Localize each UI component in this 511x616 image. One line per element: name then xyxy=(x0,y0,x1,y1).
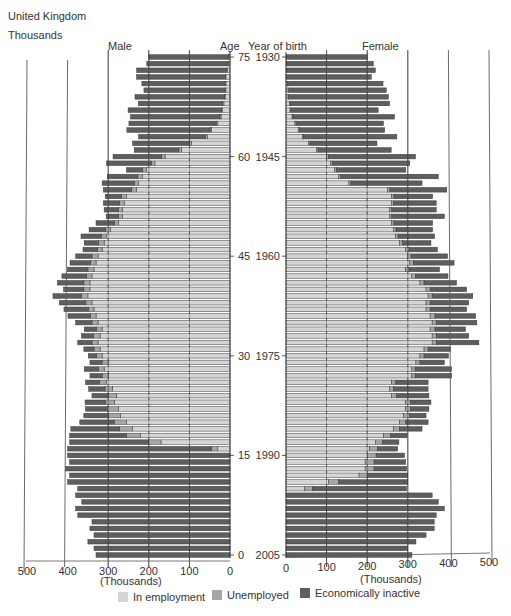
svg-text:0: 0 xyxy=(238,549,244,561)
svg-text:30: 30 xyxy=(238,350,250,362)
units-label: Thousands xyxy=(8,29,62,41)
svg-text:200: 200 xyxy=(358,560,376,572)
svg-text:100: 100 xyxy=(180,565,198,577)
svg-text:300: 300 xyxy=(399,558,417,570)
svg-text:100: 100 xyxy=(317,561,335,573)
female-label: Female xyxy=(362,40,399,52)
population-pyramid-chart: 7519306019454519603019751519900200500100… xyxy=(0,0,511,616)
svg-text:2005: 2005 xyxy=(256,549,280,561)
svg-text:400: 400 xyxy=(439,557,457,569)
svg-text:0: 0 xyxy=(283,562,289,574)
legend-label: Unemployed xyxy=(227,589,289,601)
legend-item-unemployed: Unemployed xyxy=(212,589,289,601)
svg-text:45: 45 xyxy=(238,250,250,262)
male-x-unit-label: (Thousands) xyxy=(100,575,162,587)
male-label: Male xyxy=(108,40,132,52)
svg-text:500: 500 xyxy=(480,556,498,568)
axes xyxy=(26,52,490,561)
svg-text:60: 60 xyxy=(238,151,250,163)
female-bars xyxy=(286,50,479,567)
svg-text:15: 15 xyxy=(238,449,250,461)
legend-label: In employment xyxy=(133,591,205,603)
svg-text:1945: 1945 xyxy=(256,151,280,163)
legend: In employment Unemployed Economically in… xyxy=(0,591,511,607)
svg-text:500: 500 xyxy=(18,565,36,577)
legend-item-employment: In employment xyxy=(118,591,205,603)
svg-text:1960: 1960 xyxy=(256,250,280,262)
age-axis-label: Age xyxy=(220,40,240,52)
employment-swatch-icon xyxy=(118,592,128,602)
inactive-swatch-icon xyxy=(300,588,310,598)
legend-label: Economically inactive xyxy=(315,587,420,599)
svg-text:1930: 1930 xyxy=(256,51,280,63)
male-bars xyxy=(53,50,230,567)
svg-text:1990: 1990 xyxy=(256,449,280,461)
svg-text:1975: 1975 xyxy=(256,350,280,362)
legend-item-inactive: Economically inactive xyxy=(300,587,420,599)
year-of-birth-label: Year of birth xyxy=(248,40,307,52)
unemployed-swatch-icon xyxy=(212,590,222,600)
region-label: United Kingdom xyxy=(8,10,86,22)
svg-text:75: 75 xyxy=(238,51,250,63)
svg-text:400: 400 xyxy=(58,565,76,577)
female-x-unit-label: (Thousands) xyxy=(360,573,422,585)
svg-text:0: 0 xyxy=(227,565,233,577)
